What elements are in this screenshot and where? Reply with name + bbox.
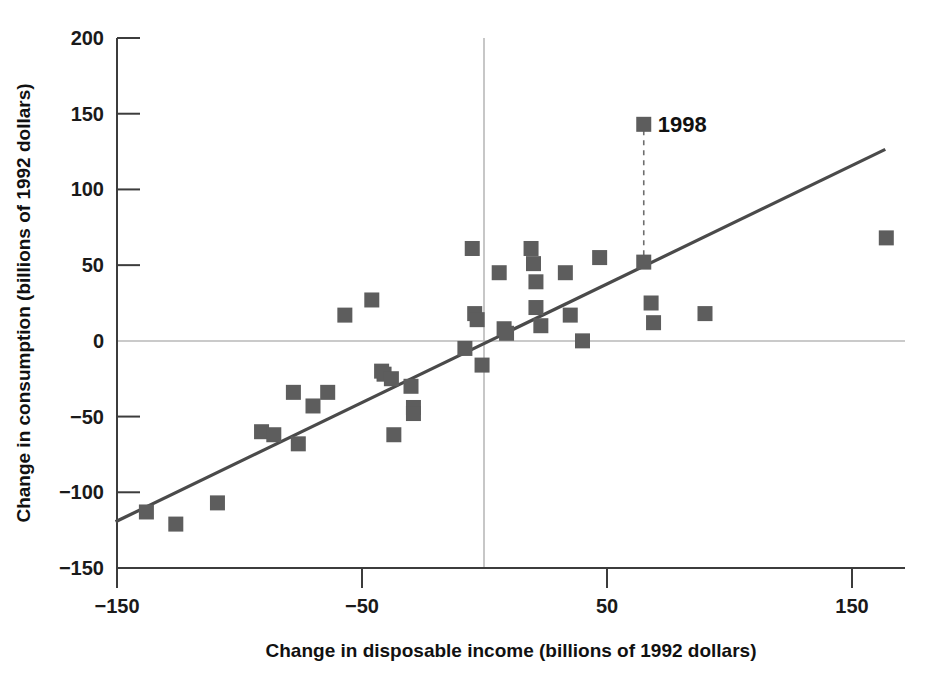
x-axis-ticks: −150−5050150 xyxy=(94,568,868,617)
y-tick-label: 0 xyxy=(93,330,104,352)
data-point xyxy=(475,358,490,373)
data-point xyxy=(563,308,578,323)
data-point xyxy=(646,315,661,330)
data-point xyxy=(364,292,379,307)
data-point xyxy=(575,333,590,348)
data-point xyxy=(457,341,472,356)
data-point xyxy=(286,385,301,400)
data-point xyxy=(644,296,659,311)
x-tick-label: −150 xyxy=(94,595,139,617)
data-point xyxy=(404,379,419,394)
data-point xyxy=(386,427,401,442)
data-point xyxy=(528,274,543,289)
zero-reference-lines xyxy=(117,38,905,568)
y-axis-title: Change in consumption (billions of 1992 … xyxy=(13,83,34,522)
scatter-chart: 200150100500−50−100−150 −150−5050150 199… xyxy=(0,0,931,677)
data-point xyxy=(320,385,335,400)
data-point xyxy=(533,318,548,333)
axes xyxy=(117,38,905,570)
y-tick-label: 50 xyxy=(82,254,104,276)
data-point xyxy=(470,312,485,327)
x-tick-label: −50 xyxy=(345,595,379,617)
data-point xyxy=(499,326,514,341)
y-tick-label: 200 xyxy=(71,27,104,49)
x-tick-label: 50 xyxy=(596,595,618,617)
data-point xyxy=(592,250,607,265)
annotation-label-1998: 1998 xyxy=(658,112,707,137)
annotation-marker-swatch xyxy=(636,117,651,132)
data-point xyxy=(558,265,573,280)
data-point xyxy=(528,300,543,315)
y-tick-label: 150 xyxy=(71,103,104,125)
data-point xyxy=(406,406,421,421)
y-axis-ticks: 200150100500−50−100−150 xyxy=(59,27,140,579)
data-point xyxy=(698,306,713,321)
chart-canvas: 200150100500−50−100−150 −150−5050150 199… xyxy=(0,0,931,677)
data-point xyxy=(384,371,399,386)
data-point xyxy=(139,504,154,519)
data-point xyxy=(465,241,480,256)
y-tick-label: −150 xyxy=(59,557,104,579)
data-point xyxy=(524,241,539,256)
data-point xyxy=(291,436,306,451)
data-point xyxy=(879,230,894,245)
data-point xyxy=(526,256,541,271)
data-point xyxy=(337,308,352,323)
data-point xyxy=(636,255,651,270)
data-point-group xyxy=(139,230,894,531)
x-tick-label: 150 xyxy=(835,595,868,617)
y-tick-label: 100 xyxy=(71,178,104,200)
data-point xyxy=(168,517,183,532)
y-tick-label: −50 xyxy=(70,406,104,428)
data-point xyxy=(492,265,507,280)
x-axis-title: Change in disposable income (billions of… xyxy=(266,640,757,661)
data-point xyxy=(266,427,281,442)
y-tick-label: −100 xyxy=(59,481,104,503)
data-point xyxy=(306,398,321,413)
data-point xyxy=(210,495,225,510)
